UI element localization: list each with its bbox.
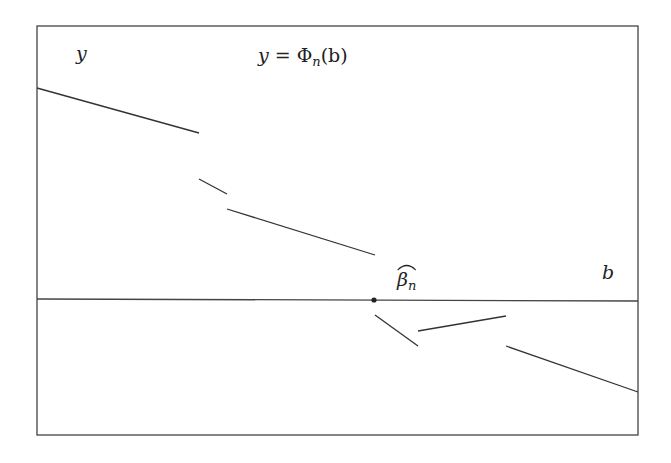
function-segment-5 [418,316,506,331]
title-lhs: y = [258,44,297,66]
function-segment-2 [199,179,227,194]
function-segment-1 [37,88,199,133]
function-segment-3 [227,209,375,255]
plot-frame [37,26,638,435]
function-segment-6 [506,346,638,392]
function-segments [37,88,638,392]
b-axis-label: b [602,263,614,282]
b-axis-line [37,299,638,301]
title-subscript: n [312,54,320,69]
phi-symbol: Φ [297,44,313,66]
hat-accent-icon [397,261,416,271]
function-title: y = Φn(b) [258,46,348,68]
estimator-subscript: n [408,278,416,293]
beta-symbol: β [397,268,408,290]
function-plot [0,0,671,463]
estimator-label: βn [397,270,416,292]
function-segment-4 [375,315,418,346]
root-point [371,297,376,302]
y-axis-label: y [76,44,87,63]
title-argument: (b) [321,44,348,66]
